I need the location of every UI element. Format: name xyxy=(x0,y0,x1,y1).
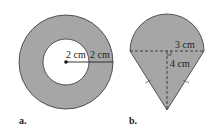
ring-width-label: 2 cm xyxy=(90,49,110,60)
center-point xyxy=(64,60,68,64)
figure-b: 3 cm 4 cm b. xyxy=(129,14,204,126)
inner-radius-label: 2 cm xyxy=(66,49,86,60)
height-label: 4 cm xyxy=(170,58,190,69)
diagram-canvas: 2 cm 2 cm a. 3 cm 4 cm b. xyxy=(0,0,215,129)
caption-a: a. xyxy=(19,115,27,126)
figure-a: 2 cm 2 cm a. xyxy=(19,15,113,126)
radius-label: 3 cm xyxy=(175,39,195,50)
caption-b: b. xyxy=(129,115,138,126)
